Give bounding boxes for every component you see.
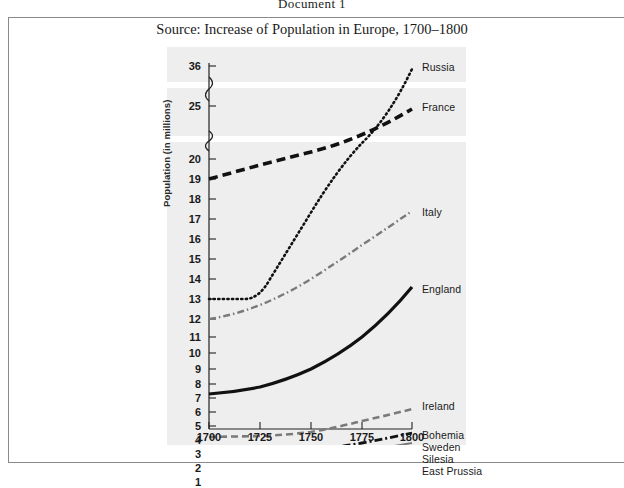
series-label-bohemia: Bohemia	[422, 429, 464, 441]
series-label-russia: Russia	[422, 61, 455, 73]
page-rule-left	[8, 17, 9, 463]
series-label-sweden: Sweden	[422, 441, 461, 453]
series-line-england	[209, 287, 412, 394]
series-label-east-prussia: East Prussia	[422, 465, 482, 477]
x-tick: 1750	[291, 431, 331, 443]
series-label-silesia: Silesia	[422, 453, 454, 465]
series-label-england: England	[422, 283, 461, 295]
y-tick: 2	[175, 463, 201, 473]
series-line-russia	[209, 69, 412, 299]
series-label-france: France	[422, 101, 455, 113]
page-rule-top	[8, 17, 624, 18]
x-tick: 1700	[189, 431, 229, 443]
x-tick: 1775	[342, 431, 382, 443]
series-label-italy: Italy	[422, 206, 442, 218]
x-tick: 1725	[240, 431, 280, 443]
chart-panel: Population (in millions) 36 25 20 19 18 …	[167, 47, 466, 445]
series-label-ireland: Ireland	[422, 400, 455, 412]
page-header: Document 1	[0, 0, 624, 12]
series-line-sweden	[209, 443, 412, 445]
x-tick-marks	[209, 422, 412, 429]
source-title: Source: Increase of Population in Europe…	[0, 21, 624, 38]
y-tick: 3	[175, 449, 201, 459]
y-tick: 1	[175, 477, 201, 487]
page-rule-bottom	[8, 462, 624, 463]
y-tick-marks	[209, 66, 216, 426]
series-line-france	[209, 109, 412, 179]
series-line-italy	[209, 211, 412, 319]
